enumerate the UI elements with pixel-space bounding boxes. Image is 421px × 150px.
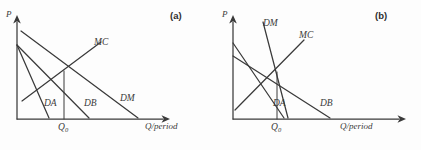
- curve-db-b: [233, 56, 330, 118]
- panel-a: P Q/period MC DA DB DM Q0 (a): [0, 0, 210, 150]
- curve-mc-a: [22, 42, 101, 101]
- q0-letter-b: Q: [271, 122, 278, 132]
- curve-label-dm-a: DM: [120, 94, 135, 104]
- curve-label-da-a: DA: [44, 99, 57, 109]
- panel-label-b: (b): [375, 11, 387, 21]
- q0-label-b: Q0: [271, 123, 281, 133]
- y-axis-label-a: P: [6, 10, 12, 19]
- x-axis-label-b: Q/period: [340, 122, 373, 131]
- economics-figure: P Q/period MC DA DB DM Q0 (a): [0, 0, 421, 150]
- curve-dm-a: [21, 31, 138, 118]
- curve-label-dm-b: DM: [263, 19, 278, 29]
- panel-b: P Q/period DM MC DA DB Q0 (b): [211, 0, 421, 150]
- panel-a-plot: [0, 0, 210, 150]
- q0-subscript-b: 0: [278, 126, 281, 133]
- panel-b-plot: [211, 0, 421, 150]
- curve-label-mc-a: MC: [94, 38, 108, 48]
- q0-subscript-a: 0: [65, 126, 68, 133]
- curve-label-mc-b: MC: [299, 31, 313, 41]
- q0-letter-a: Q: [58, 122, 65, 132]
- x-axis-label-a: Q/period: [145, 122, 178, 131]
- panel-label-a: (a): [170, 11, 182, 21]
- q0-label-a: Q0: [58, 123, 68, 133]
- curve-label-db-b: DB: [320, 99, 333, 109]
- curve-label-db-a: DB: [84, 99, 97, 109]
- y-axis-label-b: P: [222, 10, 228, 19]
- curve-mc-b: [235, 40, 304, 110]
- curve-label-da-b: DA: [273, 99, 286, 109]
